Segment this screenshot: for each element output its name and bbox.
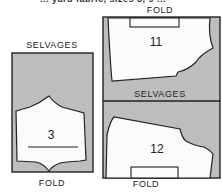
right-bottom-fold-label: FOLD bbox=[133, 179, 159, 189]
pattern-layout-diagram: SELVAGES 3 FOLD FOLD 11 SELVAGES 12 FOLD bbox=[0, 0, 222, 192]
piece-12-fold-mark bbox=[131, 167, 178, 178]
right-top-fold-label: FOLD bbox=[147, 5, 173, 15]
right-selvages-label: SELVAGES bbox=[134, 89, 186, 99]
piece-12-number: 12 bbox=[150, 142, 164, 156]
piece-11-number: 11 bbox=[150, 35, 163, 49]
piece-3-number: 3 bbox=[48, 128, 55, 142]
right-layout: FOLD 11 SELVAGES 12 FOLD bbox=[103, 5, 220, 189]
piece-11-fold-mark bbox=[130, 18, 179, 27]
left-fold-label: FOLD bbox=[39, 178, 65, 188]
left-selvages-label: SELVAGES bbox=[26, 40, 78, 50]
left-layout: SELVAGES 3 FOLD bbox=[12, 40, 93, 188]
